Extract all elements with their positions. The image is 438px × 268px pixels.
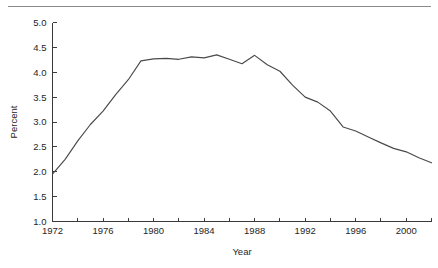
x-axis-title: Year — [232, 246, 251, 257]
data-series-line — [53, 55, 432, 174]
x-axis-tick-label: 1992 — [295, 225, 316, 236]
y-axis-tick-label: 2.5 — [33, 141, 46, 152]
x-axis-ticks — [53, 218, 432, 222]
x-axis-tick-label: 1972 — [42, 225, 63, 236]
x-axis-tick-labels: 19721976198019841988199219962000 — [42, 225, 417, 236]
y-axis-tick-labels: 1.01.52.02.53.03.54.04.55.0 — [33, 17, 46, 227]
y-axis-ticks — [53, 23, 57, 222]
y-axis-tick-label: 1.5 — [33, 191, 46, 202]
x-axis-tick-label: 1996 — [345, 225, 366, 236]
x-axis-tick-label: 1988 — [244, 225, 265, 236]
y-axis-tick-label: 4.0 — [33, 67, 46, 78]
y-axis-group: 1.01.52.02.53.03.54.04.55.0 — [33, 17, 56, 227]
x-axis-tick-label: 1976 — [92, 225, 113, 236]
y-axis-tick-label: 3.5 — [33, 92, 46, 103]
x-axis-tick-label: 1980 — [143, 225, 164, 236]
line-chart-figure: 1.01.52.02.53.03.54.04.55.0 197219761980… — [0, 0, 438, 268]
y-axis-tick-label: 3.0 — [33, 116, 46, 127]
chart-canvas: 1.01.52.02.53.03.54.04.55.0 197219761980… — [0, 0, 438, 268]
y-axis-tick-label: 5.0 — [33, 17, 46, 28]
x-axis-group: 19721976198019841988199219962000 — [42, 218, 432, 236]
y-axis-tick-label: 2.0 — [33, 166, 46, 177]
chart-screenshot: 1.01.52.02.53.03.54.04.55.0 197219761980… — [0, 0, 438, 268]
x-axis-tick-label: 1984 — [194, 225, 215, 236]
x-axis-tick-label: 2000 — [396, 225, 417, 236]
y-axis-title: Percent — [8, 105, 19, 138]
plot-area — [53, 55, 432, 174]
y-axis-tick-label: 4.5 — [33, 42, 46, 53]
